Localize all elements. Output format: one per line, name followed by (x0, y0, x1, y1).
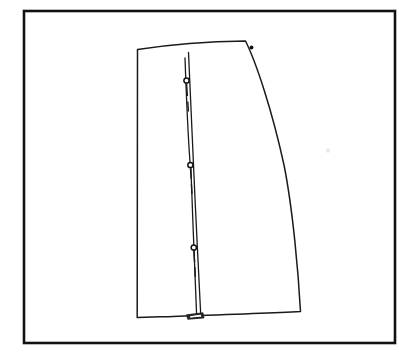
button-top (184, 78, 189, 83)
dash-bottom (195, 267, 196, 277)
line-drawing-canvas: Skirt garment technical line drawing Bla… (0, 0, 399, 355)
dash-middle (191, 185, 192, 195)
dash-top (188, 102, 189, 112)
paper-speck (326, 148, 330, 152)
border-frame (24, 11, 395, 343)
stitch-top (187, 84, 188, 96)
stitch-bottom (194, 251, 195, 262)
shoulder-point-dot (250, 46, 254, 50)
stitch-middle (191, 169, 192, 180)
button-middle (188, 162, 193, 167)
button-bottom (191, 245, 196, 250)
figure-container: Skirt garment technical line drawing Bla… (0, 0, 399, 355)
